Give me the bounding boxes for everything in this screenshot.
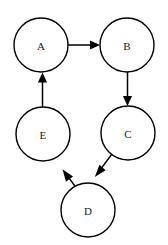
edge-b-to-c-arrowhead-icon	[123, 96, 132, 106]
edge-e-to-a-arrowhead-icon	[38, 73, 47, 83]
edge-b-to-c	[123, 72, 132, 106]
edge-c-to-d-arrowhead-icon	[95, 165, 106, 177]
graph-node-c[interactable]: C	[101, 106, 155, 160]
edge-d-to-e	[63, 169, 76, 186]
node-e-label: E	[40, 129, 47, 141]
graph-node-d[interactable]: D	[61, 183, 115, 237]
edge-a-to-b-arrowhead-icon	[90, 40, 100, 49]
node-a-label: A	[37, 40, 45, 52]
graph-node-a[interactable]: A	[14, 18, 68, 72]
node-c-label: C	[124, 128, 132, 140]
edge-c-to-d	[95, 155, 112, 177]
edge-d-to-e-arrowhead-icon	[63, 169, 74, 181]
edge-e-to-a	[38, 73, 47, 108]
graph-node-e[interactable]: E	[16, 107, 70, 161]
node-d-label: D	[84, 205, 92, 217]
graph-canvas: A B C E D	[0, 0, 168, 245]
node-layer: A B C E D	[14, 18, 155, 237]
node-b-label: B	[123, 40, 131, 52]
edge-a-to-b	[68, 40, 100, 49]
directed-graph-figure: A B C E D	[0, 0, 168, 245]
graph-node-b[interactable]: B	[100, 18, 154, 72]
